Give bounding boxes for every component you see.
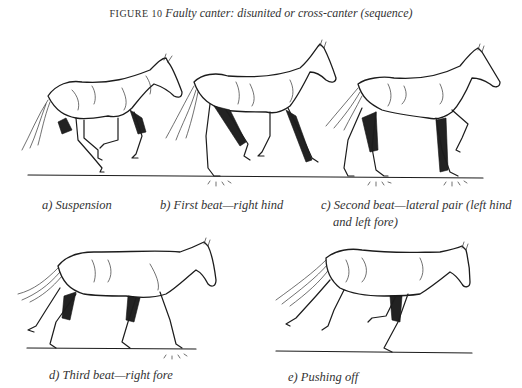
horse-b-first-beat <box>166 40 336 186</box>
caption-a: a) Suspension <box>42 197 112 214</box>
caption-d: d) Third beat—right fore <box>49 367 173 384</box>
horse-c-second-beat <box>326 44 500 186</box>
ground-line-bottom-left <box>27 348 196 349</box>
caption-c-line1: c) Second beat—lateral pair (left hind <box>321 197 512 214</box>
ground-line-bottom-right <box>276 351 472 353</box>
horse-a-suspension <box>22 54 182 172</box>
caption-c-line2: and left fore) <box>333 214 398 231</box>
ground-line-top <box>28 175 483 178</box>
horse-d-third-beat <box>18 238 216 359</box>
caption-b: b) First beat—right hind <box>160 197 283 214</box>
horse-e-pushing-off <box>276 242 470 352</box>
horse-illustrations <box>0 0 522 388</box>
caption-e: e) Pushing off <box>288 369 358 386</box>
